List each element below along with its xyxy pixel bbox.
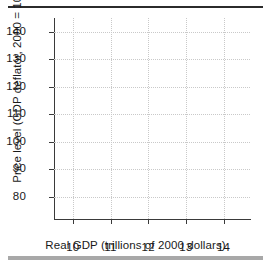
gridline-vertical [111,18,112,219]
gridline-horizontal [54,87,250,88]
plot-area: 80901001101201301401011121314 [54,18,250,219]
gridline-horizontal [54,32,250,33]
y-axis-tick [49,197,54,198]
y-axis-tick-label: 80 [0,191,26,203]
x-axis-tick [111,219,112,224]
x-axis-tick [186,219,187,224]
y-axis-tick [49,87,54,88]
y-axis-tick [49,142,54,143]
gridline-vertical [186,18,187,219]
gridline-horizontal [54,169,250,170]
gridline-horizontal [54,197,250,198]
x-axis-tick [148,219,149,224]
y-axis-tick [49,114,54,115]
gridline-horizontal [54,59,250,60]
x-axis-tick [224,219,225,224]
plot-inner: 80901001101201301401011121314 [54,18,250,219]
gridline-vertical [224,18,225,219]
gridline-vertical [148,18,149,219]
gridline-horizontal [54,114,250,115]
figure-container: 80901001101201301401011121314 Price leve… [0,0,271,267]
y-axis-tick [49,169,54,170]
y-axis-title: Price level (GDP deflator, 2000 = 100) [11,0,23,189]
x-axis-line [54,219,251,220]
gridline-vertical [73,18,74,219]
x-axis-title: Real GDP (trillions of 2000 dollars) [0,239,271,251]
y-axis-tick [49,59,54,60]
x-axis-tick [73,219,74,224]
gridline-horizontal [54,142,250,143]
y-axis-tick [49,32,54,33]
bottom-divider-bar [8,256,263,260]
top-divider-rule [8,6,263,8]
